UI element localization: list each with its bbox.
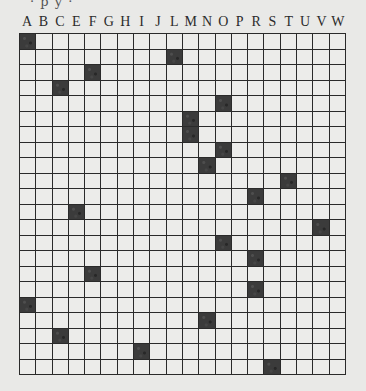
grid-cell-r13-r[interactable] <box>248 236 264 252</box>
grid-cell-r10-f[interactable] <box>85 189 101 205</box>
grid-cell-r19-v[interactable] <box>313 329 329 345</box>
grid-cell-r17-n[interactable] <box>199 298 215 314</box>
grid-cell-r9-p[interactable] <box>232 174 248 190</box>
grid-cell-r14-c[interactable] <box>53 251 69 267</box>
grid-cell-r17-m[interactable] <box>183 298 199 314</box>
grid-cell-r21-b[interactable] <box>36 360 52 376</box>
grid-cell-r3-j[interactable] <box>150 81 166 97</box>
grid-cell-r20-l[interactable] <box>167 344 183 360</box>
grid-cell-r8-w[interactable] <box>330 158 346 174</box>
grid-cell-r17-j[interactable] <box>150 298 166 314</box>
grid-cell-r3-o[interactable] <box>216 81 232 97</box>
grid-cell-r10-s[interactable] <box>264 189 280 205</box>
grid-cell-r12-g[interactable] <box>101 220 117 236</box>
grid-cell-r11-c[interactable] <box>53 205 69 221</box>
grid-cell-r5-c[interactable] <box>53 112 69 128</box>
grid-cell-r3-l[interactable] <box>167 81 183 97</box>
grid-cell-r6-c[interactable] <box>53 127 69 143</box>
grid-cell-r9-v[interactable] <box>313 174 329 190</box>
grid-cell-r14-b[interactable] <box>36 251 52 267</box>
grid-cell-r11-h[interactable] <box>118 205 134 221</box>
grid-cell-r13-u[interactable] <box>297 236 313 252</box>
grid-cell-r14-w[interactable] <box>330 251 346 267</box>
grid-cell-r11-l[interactable] <box>167 205 183 221</box>
grid-cell-r17-s[interactable] <box>264 298 280 314</box>
grid-cell-r2-b[interactable] <box>36 65 52 81</box>
grid-cell-r7-m[interactable] <box>183 143 199 159</box>
grid-cell-r5-n[interactable] <box>199 112 215 128</box>
grid-cell-r8-b[interactable] <box>36 158 52 174</box>
grid-cell-r0-s[interactable] <box>264 34 280 50</box>
grid-cell-r5-j[interactable] <box>150 112 166 128</box>
grid-cell-r0-p[interactable] <box>232 34 248 50</box>
grid-cell-r5-t[interactable] <box>281 112 297 128</box>
grid-cell-r5-u[interactable] <box>297 112 313 128</box>
grid-cell-r19-l[interactable] <box>167 329 183 345</box>
grid-cell-r5-l[interactable] <box>167 112 183 128</box>
grid-cell-r10-l[interactable] <box>167 189 183 205</box>
grid-cell-r4-j[interactable] <box>150 96 166 112</box>
grid-cell-r17-e[interactable] <box>69 298 85 314</box>
grid-cell-r9-r[interactable] <box>248 174 264 190</box>
grid-cell-r9-m[interactable] <box>183 174 199 190</box>
grid-cell-r20-f[interactable] <box>85 344 101 360</box>
grid-cell-r16-v[interactable] <box>313 282 329 298</box>
grid-cell-r14-h[interactable] <box>118 251 134 267</box>
grid-cell-r8-i[interactable] <box>134 158 150 174</box>
grid-cell-r9-s[interactable] <box>264 174 280 190</box>
grid-cell-r17-p[interactable] <box>232 298 248 314</box>
grid-cell-r9-w[interactable] <box>330 174 346 190</box>
filled-cell-r8-n[interactable] <box>199 158 215 174</box>
grid-cell-r20-p[interactable] <box>232 344 248 360</box>
grid-cell-r13-i[interactable] <box>134 236 150 252</box>
grid-cell-r9-i[interactable] <box>134 174 150 190</box>
grid-cell-r21-i[interactable] <box>134 360 150 376</box>
grid-cell-r10-g[interactable] <box>101 189 117 205</box>
grid-cell-r18-j[interactable] <box>150 313 166 329</box>
grid-cell-r3-t[interactable] <box>281 81 297 97</box>
grid-cell-r3-h[interactable] <box>118 81 134 97</box>
grid-cell-r13-h[interactable] <box>118 236 134 252</box>
grid-cell-r1-j[interactable] <box>150 50 166 66</box>
grid-cell-r6-u[interactable] <box>297 127 313 143</box>
grid-cell-r18-w[interactable] <box>330 313 346 329</box>
grid-cell-r11-a[interactable] <box>20 205 36 221</box>
grid-cell-r4-g[interactable] <box>101 96 117 112</box>
grid-cell-r11-b[interactable] <box>36 205 52 221</box>
grid-cell-r9-a[interactable] <box>20 174 36 190</box>
grid-cell-r18-u[interactable] <box>297 313 313 329</box>
grid-cell-r9-g[interactable] <box>101 174 117 190</box>
grid-cell-r15-j[interactable] <box>150 267 166 283</box>
grid-cell-r15-o[interactable] <box>216 267 232 283</box>
grid-cell-r18-a[interactable] <box>20 313 36 329</box>
filled-cell-r1-l[interactable] <box>167 50 183 66</box>
grid-cell-r16-a[interactable] <box>20 282 36 298</box>
grid-cell-r12-i[interactable] <box>134 220 150 236</box>
grid-cell-r19-h[interactable] <box>118 329 134 345</box>
grid-cell-r1-v[interactable] <box>313 50 329 66</box>
grid-cell-r6-s[interactable] <box>264 127 280 143</box>
grid-cell-r9-b[interactable] <box>36 174 52 190</box>
grid-cell-r19-f[interactable] <box>85 329 101 345</box>
grid-cell-r0-n[interactable] <box>199 34 215 50</box>
grid-cell-r20-j[interactable] <box>150 344 166 360</box>
grid-cell-r4-f[interactable] <box>85 96 101 112</box>
grid-cell-r13-m[interactable] <box>183 236 199 252</box>
grid-cell-r12-j[interactable] <box>150 220 166 236</box>
grid-cell-r12-s[interactable] <box>264 220 280 236</box>
grid-cell-r20-t[interactable] <box>281 344 297 360</box>
grid-cell-r7-e[interactable] <box>69 143 85 159</box>
grid-cell-r12-m[interactable] <box>183 220 199 236</box>
grid-cell-r0-h[interactable] <box>118 34 134 50</box>
grid-cell-r4-i[interactable] <box>134 96 150 112</box>
grid-cell-r4-e[interactable] <box>69 96 85 112</box>
grid-cell-r5-s[interactable] <box>264 112 280 128</box>
grid-cell-r6-n[interactable] <box>199 127 215 143</box>
grid-cell-r14-n[interactable] <box>199 251 215 267</box>
grid-cell-r20-n[interactable] <box>199 344 215 360</box>
grid-cell-r10-n[interactable] <box>199 189 215 205</box>
grid-cell-r7-b[interactable] <box>36 143 52 159</box>
grid-cell-r19-e[interactable] <box>69 329 85 345</box>
grid-cell-r10-e[interactable] <box>69 189 85 205</box>
grid-cell-r10-o[interactable] <box>216 189 232 205</box>
